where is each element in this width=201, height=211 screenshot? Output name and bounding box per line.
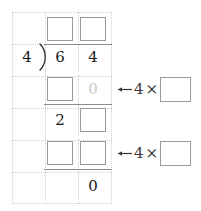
- divisor-digit: 4: [14, 45, 40, 69]
- partial-product2-ones-box[interactable]: [80, 141, 106, 165]
- grid-line-horizontal: [12, 12, 112, 13]
- hint-times-symbol-1: ×: [146, 80, 159, 98]
- long-division-worksheet: 4 6 4 0 2 0 4 ×: [0, 0, 201, 211]
- partial-product-ones-digit: 0: [80, 77, 106, 101]
- left-arrow-icon: [117, 85, 133, 94]
- quotient-ones-box[interactable]: [80, 17, 106, 41]
- hint-multiplier-2: 4: [134, 144, 144, 162]
- bring-down-box[interactable]: [80, 108, 106, 132]
- grid-line-horizontal: [12, 172, 112, 173]
- dividend-digit-ones: 4: [80, 45, 106, 69]
- hint-multiply-2: 4 ×: [117, 141, 191, 165]
- hint-factor-2-box[interactable]: [160, 141, 191, 166]
- dividend-digit-tens: 6: [47, 45, 73, 69]
- grid-line-horizontal: [12, 203, 112, 204]
- hint-times-symbol-2: ×: [146, 144, 159, 162]
- left-arrow-icon: [117, 149, 133, 158]
- partial-product2-tens-box[interactable]: [47, 141, 73, 165]
- partial-product-tens-box[interactable]: [47, 77, 73, 101]
- quotient-tens-box[interactable]: [47, 17, 73, 41]
- hint-multiply-1: 4 ×: [117, 77, 191, 101]
- final-remainder-digit: 0: [80, 174, 106, 198]
- hint-factor-1-box[interactable]: [160, 77, 191, 102]
- hint-multiplier-1: 4: [134, 80, 144, 98]
- subtraction-rule-2: [44, 169, 112, 170]
- remainder-digit: 2: [47, 108, 73, 132]
- subtraction-rule-1: [44, 104, 112, 105]
